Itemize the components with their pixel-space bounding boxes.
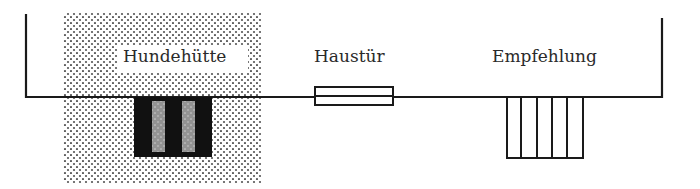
- floor-plan-diagram: [0, 0, 700, 189]
- dog-house-symbol: [134, 97, 212, 157]
- label-haustuer: Haustür: [314, 48, 385, 65]
- diagram-canvas: Hundehütte Haustür Empfehlung: [0, 0, 700, 189]
- recommendation-symbol: [507, 97, 583, 158]
- label-empfehlung: Empfehlung: [492, 48, 597, 65]
- front-door-symbol: [315, 87, 393, 105]
- label-hundehuette: Hundehütte: [123, 48, 226, 65]
